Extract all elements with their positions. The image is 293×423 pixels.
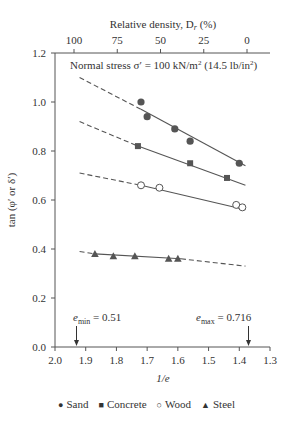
y-tick-label: 0.8 [32, 145, 46, 157]
legend-label: Steel [213, 398, 235, 410]
concrete-point [224, 175, 230, 181]
e-limit-arrows [74, 326, 251, 346]
y-axis-ticks: 0.00.20.40.60.81.01.2 [32, 47, 55, 353]
y-tick-label: 0.0 [32, 341, 46, 353]
legend-item-wood: ○Wood [157, 398, 191, 410]
fit-lines [80, 78, 246, 267]
legend-label: Sand [66, 398, 88, 410]
sand-point [187, 138, 194, 145]
arrow-head-icon [246, 340, 251, 346]
top-tick-label: 0 [244, 34, 250, 46]
fit-line-dashed [80, 251, 95, 253]
wood-point [239, 204, 246, 211]
x-tick-label: 1.6 [171, 354, 185, 366]
y-axis-label: tan (φ′ or δ′) [5, 172, 18, 227]
legend-item-sand: ●Sand [58, 398, 88, 410]
legend: ●Sand■Concrete○Wood▲Steel [0, 398, 293, 410]
x-axis-ticks: 2.01.91.81.71.61.51.41.3 [48, 347, 277, 366]
legend-symbol-icon: ○ [157, 400, 162, 410]
x-tick-label: 1.4 [232, 354, 246, 366]
y-tick-label: 0.4 [32, 243, 46, 255]
sand-point [236, 160, 243, 167]
y-tick-label: 0.2 [32, 292, 46, 304]
y-tick-label: 1.2 [32, 47, 46, 59]
arrow-head-icon [74, 340, 79, 346]
wood-point [138, 182, 145, 189]
legend-item-steel: ▲Steel [201, 398, 235, 410]
legend-symbol-icon: ● [58, 400, 63, 410]
legend-symbol-icon: ▲ [201, 400, 210, 410]
legend-label: Wood [165, 398, 191, 410]
sand-point [144, 113, 151, 120]
y-tick-label: 0.6 [32, 194, 46, 206]
sand-point [171, 125, 178, 132]
legend-symbol-icon: ■ [98, 400, 103, 410]
normal-stress-annotation: Normal stress σ′ = 100 kN/m2 (14.5 lb/in… [70, 59, 258, 72]
x-tick-label: 1.8 [110, 354, 124, 366]
x-tick-label: 1.5 [202, 354, 216, 366]
fit-line-solid [141, 109, 245, 165]
top-tick-label: 75 [112, 34, 124, 46]
x-tick-label: 1.3 [263, 354, 277, 366]
steel-point [110, 252, 118, 259]
concrete-point [187, 160, 193, 166]
concrete-point [135, 143, 141, 149]
sand-point [137, 98, 144, 105]
top-axis-title: Relative density, Dr (%) [110, 18, 217, 32]
fit-line-dashed [80, 78, 141, 110]
top-tick-label: 100 [66, 34, 83, 46]
emax-label: emax = 0.716 [196, 311, 252, 326]
y-tick-label: 1.0 [32, 96, 46, 108]
top-axis-ticks: 1007550250 [66, 34, 251, 53]
x-tick-label: 2.0 [48, 354, 62, 366]
fit-line-dashed [181, 259, 246, 266]
legend-item-concrete: ■Concrete [98, 398, 146, 410]
chart-canvas: Relative density, Dr (%) 1007550250 0.00… [0, 0, 293, 400]
x-tick-label: 1.7 [140, 354, 154, 366]
x-axis-label: 1/e [156, 372, 170, 384]
top-tick-label: 25 [198, 34, 210, 46]
emin-label: emin = 0.51 [73, 311, 121, 326]
axes [55, 53, 270, 347]
fit-line-dashed [80, 122, 138, 147]
legend-label: Concrete [107, 398, 147, 410]
x-tick-label: 1.9 [79, 354, 93, 366]
wood-point [156, 184, 163, 191]
top-tick-label: 50 [155, 34, 167, 46]
fit-line-dashed [80, 173, 141, 185]
